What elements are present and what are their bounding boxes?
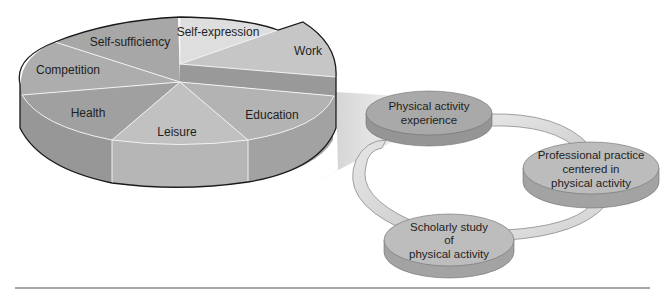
label-self-sufficiency: Self-sufficiency [90,35,170,49]
node3-line2: of [444,234,454,246]
node2-line1: Professional practice [538,149,645,161]
node3-line3: physical activity [409,248,489,260]
label-health: Health [71,106,106,120]
label-competition: Competition [36,63,100,77]
node2-line2: centered in [563,163,620,175]
node-scholarly-study: Scholarly study of physical activity [384,214,514,278]
label-self-expression: Self-expression [177,25,260,39]
node1-line1: Physical activity [388,100,469,112]
node-professional-practice: Professional practice centered in physic… [523,142,659,208]
label-work: Work [294,44,323,58]
label-education: Education [245,108,298,122]
pie-chart: Self-expression Work Education Leisure H… [19,17,336,187]
label-leisure: Leisure [157,125,197,139]
arrow-scholarly-to-experience [353,140,410,228]
pie-side-leisure [112,140,248,187]
node2-line3: physical activity [551,177,631,189]
node-physical-activity-experience: Physical activity experience [366,91,492,146]
node3-line1: Scholarly study [410,221,488,233]
physical-activity-diagram: Self-expression Work Education Leisure H… [0,0,664,303]
node1-line2: experience [401,114,457,126]
